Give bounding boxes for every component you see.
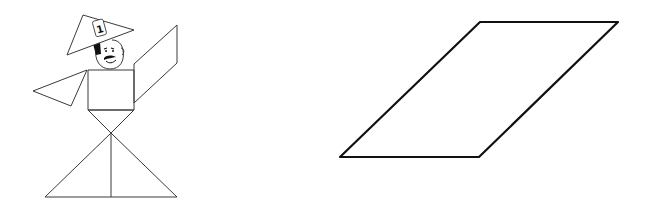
person-figure: 1: [33, 15, 177, 197]
body-square: [88, 70, 134, 110]
parallelogram-shape: [340, 22, 618, 157]
left-arm-triangle: [33, 70, 87, 106]
right-arm-parallelogram: [134, 25, 177, 103]
waist-triangle: [88, 110, 134, 133]
face: [93, 40, 124, 69]
diagram-canvas: 1: [0, 0, 649, 208]
mustache-icon: [104, 56, 116, 60]
